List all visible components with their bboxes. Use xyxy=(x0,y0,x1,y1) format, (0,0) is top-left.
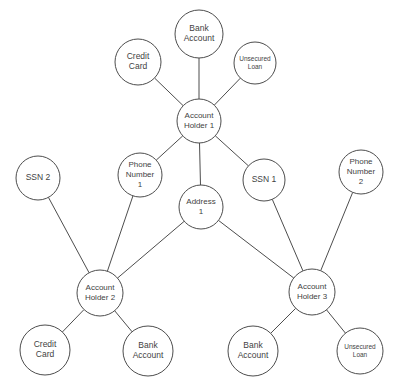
graph-edge xyxy=(321,192,353,270)
graph-edge xyxy=(107,196,133,271)
node-circle[interactable] xyxy=(175,10,223,58)
graph-edge xyxy=(272,199,303,271)
node-circle[interactable] xyxy=(115,39,161,85)
node-circle[interactable] xyxy=(177,99,221,143)
graph-node-unsecured-loan-1[interactable]: UnsecuredLoan xyxy=(234,42,276,84)
node-circle[interactable] xyxy=(234,42,276,84)
node-circle[interactable] xyxy=(16,156,60,200)
graph-edge xyxy=(118,221,185,278)
node-circle[interactable] xyxy=(243,159,285,201)
graph-edge xyxy=(155,78,184,106)
node-circle[interactable] xyxy=(118,153,162,197)
graph-edge xyxy=(62,310,84,332)
graph-node-phone-number-2[interactable]: PhoneNumber2 xyxy=(339,150,383,194)
graph-node-phone-number-1[interactable]: PhoneNumber1 xyxy=(118,153,162,197)
node-circle[interactable] xyxy=(123,326,173,376)
graph-node-account-holder-3[interactable]: AccountHolder 3 xyxy=(289,269,335,315)
graph-node-account-holder-1[interactable]: AccountHolder 1 xyxy=(177,99,221,143)
node-circle[interactable] xyxy=(289,269,335,315)
graph-edge xyxy=(48,197,89,272)
graph-edge xyxy=(271,308,296,333)
graph-node-credit-card-2[interactable]: CreditCard xyxy=(20,325,70,375)
graph-node-ssn-2[interactable]: SSN 2 xyxy=(16,156,60,200)
node-circle[interactable] xyxy=(77,270,123,316)
graph-node-credit-card-1[interactable]: CreditCard xyxy=(115,39,161,85)
graph-node-bank-account-3[interactable]: BankAccount xyxy=(228,326,278,376)
node-circle[interactable] xyxy=(179,185,223,229)
node-circle[interactable] xyxy=(228,326,278,376)
graph-edge xyxy=(218,220,293,278)
graph-edge xyxy=(156,136,183,160)
graph-edge xyxy=(115,311,132,332)
graph-edge xyxy=(327,310,346,333)
graph-node-bank-account-1[interactable]: BankAccount xyxy=(175,10,223,58)
graph-node-account-holder-2[interactable]: AccountHolder 2 xyxy=(77,270,123,316)
graph-edge xyxy=(200,143,201,185)
node-circle[interactable] xyxy=(337,328,383,374)
graph-node-ssn-1[interactable]: SSN 1 xyxy=(243,159,285,201)
graph-node-bank-account-2[interactable]: BankAccount xyxy=(123,326,173,376)
graph-edge xyxy=(215,136,248,166)
node-circle[interactable] xyxy=(20,325,70,375)
graph-svg-surface: BankAccountCreditCardUnsecuredLoanAccoun… xyxy=(0,0,396,386)
graph-node-address-1[interactable]: Address1 xyxy=(179,185,223,229)
graph-edge xyxy=(214,78,240,105)
graph-node-unsecured-loan-2[interactable]: UnsecuredLoan xyxy=(337,328,383,374)
entity-link-graph: BankAccountCreditCardUnsecuredLoanAccoun… xyxy=(0,0,396,386)
node-circle[interactable] xyxy=(339,150,383,194)
